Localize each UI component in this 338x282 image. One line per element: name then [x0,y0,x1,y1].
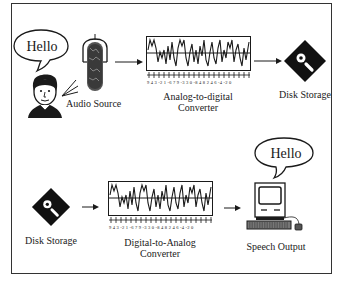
speech-output-label: Speech Output [238,241,314,252]
adc-label-line2: Converter [148,102,248,113]
adc-digit-values: 9 4 3 -2 1 -6 7 9 -3 3 0 -8 4 8 2 4 6 -4… [147,80,231,85]
person-face-icon [26,72,64,118]
disk-storage-label-top: Disk Storage [270,89,338,100]
microphone-icon [80,34,110,94]
adc-label-line1: Analog-to-digital [148,91,248,102]
sound-lines-icon [60,78,80,100]
adc-waveform [146,36,252,80]
disk-storage-label-bottom: Disk Storage [16,235,86,246]
dac-label-line2: Converter [110,248,210,259]
arrow-right-icon [224,204,244,212]
speech-bubble-top-text: Hello [20,40,64,54]
dac-label-line1: Digital-to-Analog [110,237,210,248]
computer-icon [246,182,304,232]
dac-waveform [108,181,214,225]
dac-digit-values: 9 4 3 -2 1 -6 7 9 -3 3 0 -8 4 8 2 4 6 -4… [109,225,193,230]
arrow-right-icon [254,57,284,65]
arrow-right-icon [82,203,102,211]
floppy-disk-icon [31,187,71,227]
speech-bubble-bottom-text: Hello [264,147,308,161]
audio-source-label: Audio Source [66,98,121,109]
floppy-disk-icon [283,39,327,83]
arrow-right-icon [115,58,145,66]
